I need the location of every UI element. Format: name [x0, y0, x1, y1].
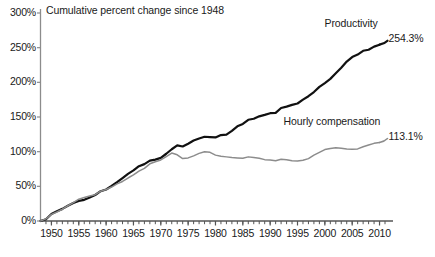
y-tick-label: 250% — [0, 41, 36, 53]
y-tick-label: 300% — [0, 6, 36, 18]
series-layer — [41, 45, 380, 221]
chart-plot-area — [0, 0, 435, 257]
y-tick-label: 0% — [0, 214, 36, 226]
series-value-hourly-compensation: 113.1% — [389, 130, 423, 142]
leader-line-productivity — [380, 41, 388, 45]
series-line-productivity — [41, 45, 380, 221]
y-tick-label: 200% — [0, 75, 36, 87]
y-tick-label: 50% — [0, 179, 36, 191]
y-tick-label: 150% — [0, 110, 36, 122]
leader-line-hourly-compensation — [380, 139, 388, 143]
productivity-compensation-chart: Cumulative percent change since 1948 0%5… — [0, 0, 435, 257]
series-line-hourly-compensation — [41, 143, 380, 221]
series-value-productivity: 254.3% — [389, 32, 424, 44]
y-tick-label: 100% — [0, 145, 36, 157]
leader-line-layer — [380, 41, 388, 143]
series-label-productivity: Productivity — [325, 17, 378, 29]
series-label-hourly-compensation: Hourly compensation — [284, 115, 381, 127]
x-tick-label: 2010 — [363, 227, 397, 239]
